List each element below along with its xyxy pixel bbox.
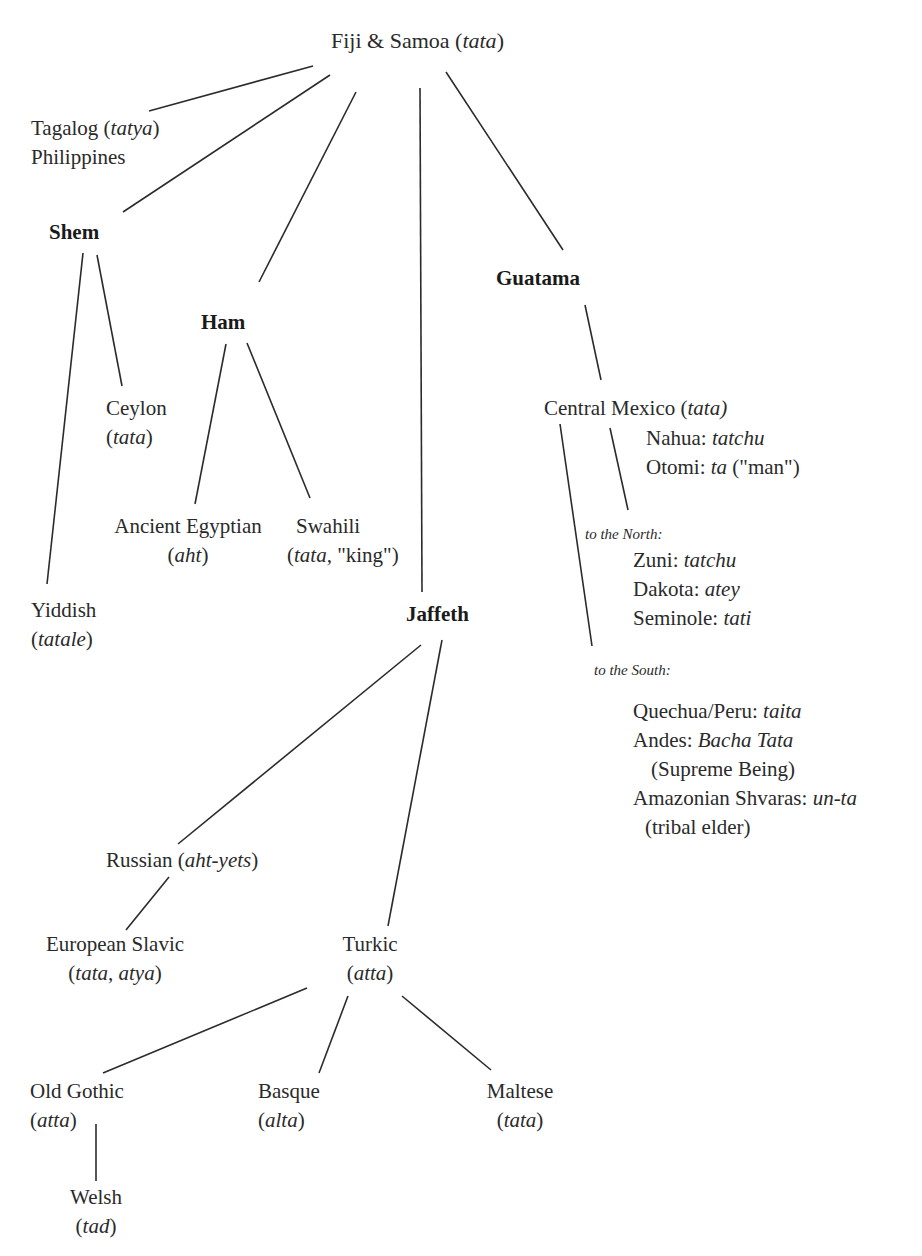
- node-word: ta: [711, 455, 727, 479]
- node-word: tatya: [111, 116, 153, 140]
- edge-ham-swahili: [247, 343, 310, 498]
- node-label: Yiddish: [31, 596, 96, 625]
- node-swahili: Swahili (tata, "king"): [287, 512, 399, 570]
- node-label: European Slavic: [30, 930, 200, 959]
- node-russian: Russian (aht-yets): [106, 846, 258, 875]
- node-word: tata, atya: [75, 961, 154, 985]
- edge-turkic-gothic: [103, 988, 307, 1073]
- edge-root-tagalog: [149, 66, 313, 111]
- node-region: Philippines: [31, 143, 160, 172]
- edge-ham-egyptian: [195, 344, 226, 504]
- node-jaffeth: Jaffeth: [406, 600, 469, 629]
- node-label: Zuni:: [633, 548, 679, 572]
- node-label: Andes:: [633, 728, 693, 752]
- node-label: Shem: [49, 220, 99, 244]
- node-label: Nahua:: [646, 426, 707, 450]
- edge-shem-yiddish: [47, 253, 83, 584]
- node-seminole: Seminole: tati: [633, 604, 751, 633]
- node-quechua: Quechua/Peru: taita: [633, 697, 802, 726]
- node-amazonian: Amazonian Shvaras: un-ta (tribal elder): [633, 784, 857, 842]
- node-label: Seminole:: [633, 606, 718, 630]
- edge-root-ham: [259, 92, 356, 282]
- node-european-slavic: European Slavic (tata, atya): [30, 930, 200, 988]
- node-word: taita: [763, 699, 802, 723]
- node-gloss: "king"): [337, 543, 398, 567]
- node-label: Tagalog: [31, 116, 98, 140]
- node-label: Russian: [106, 848, 173, 872]
- node-central-mexico: Central Mexico (tata): [544, 394, 727, 423]
- edge-root-guatama: [446, 72, 563, 250]
- node-label: Ancient Egyptian: [100, 512, 276, 541]
- note-to-the-north: to the North:: [585, 520, 663, 549]
- edge-jaffeth-russian: [178, 645, 421, 844]
- node-word: aht-yets: [185, 848, 251, 872]
- node-tagalog: Tagalog (tatya) Philippines: [31, 114, 160, 172]
- node-ancient-egyptian: Ancient Egyptian (aht): [100, 512, 276, 570]
- node-label: Dakota:: [633, 577, 699, 601]
- node-word: tatchu: [684, 548, 737, 572]
- edge-root-jaffeth: [420, 88, 422, 592]
- node-word: tata,: [294, 543, 332, 567]
- node-word: tata): [687, 396, 727, 420]
- edge-guatama-mexico: [585, 305, 601, 380]
- node-label: Basque: [258, 1077, 320, 1106]
- node-otomi: Otomi: ta ("man"): [646, 453, 800, 482]
- node-label: Swahili: [287, 512, 399, 541]
- node-word: un-ta: [813, 786, 857, 810]
- node-label: Ham: [201, 310, 245, 334]
- node-word: tata: [113, 425, 146, 449]
- node-word: alta: [265, 1108, 298, 1132]
- node-andes: Andes: Bacha Tata (Supreme Being): [633, 726, 795, 784]
- node-ham: Ham: [201, 308, 245, 337]
- node-dakota: Dakota: atey: [633, 575, 740, 604]
- node-label: Fiji & Samoa: [331, 28, 450, 53]
- edge-turkic-basque: [319, 996, 348, 1073]
- node-yiddish: Yiddish (tatale): [31, 596, 96, 654]
- node-label: Quechua/Peru:: [633, 699, 758, 723]
- node-word: tad: [83, 1214, 110, 1238]
- node-word: tati: [723, 606, 751, 630]
- node-fiji-samoa: Fiji & Samoa (tata): [331, 26, 504, 55]
- node-label: Turkic: [330, 930, 410, 959]
- node-ceylon: Ceylon (tata): [106, 394, 167, 452]
- node-word: tatchu: [712, 426, 765, 450]
- node-word: Bacha Tata: [698, 728, 793, 752]
- edge-russian-slavic: [126, 877, 169, 930]
- node-welsh: Welsh (tad): [58, 1183, 134, 1241]
- node-guatama: Guatama: [496, 264, 580, 293]
- node-zuni: Zuni: tatchu: [633, 546, 736, 575]
- node-label: Amazonian Shvaras:: [633, 786, 807, 810]
- node-word: atta: [37, 1108, 70, 1132]
- edge-mexico-north: [610, 428, 628, 510]
- node-label: Maltese: [480, 1077, 560, 1106]
- node-label: Otomi:: [646, 455, 706, 479]
- edge-jaffeth-turkic: [388, 640, 442, 926]
- node-label: Welsh: [58, 1183, 134, 1212]
- node-word: atta: [354, 961, 387, 985]
- node-gloss: ("man"): [732, 455, 799, 479]
- node-nahua: Nahua: tatchu: [646, 424, 764, 453]
- node-word: tata: [462, 28, 496, 53]
- node-label: Jaffeth: [406, 602, 469, 626]
- node-label: Old Gothic: [30, 1077, 124, 1106]
- node-label: Ceylon: [106, 394, 167, 423]
- node-old-gothic: Old Gothic (atta): [30, 1077, 124, 1135]
- node-maltese: Maltese (tata): [480, 1077, 560, 1135]
- edge-turkic-maltese: [402, 996, 491, 1070]
- node-gloss: (tribal elder): [633, 813, 857, 842]
- edge-shem-ceylon: [97, 255, 122, 386]
- node-word: tatale: [38, 627, 86, 651]
- node-word: aht: [175, 543, 202, 567]
- node-gloss: (Supreme Being): [633, 755, 795, 784]
- node-turkic: Turkic (atta): [330, 930, 410, 988]
- node-label: Central Mexico: [544, 396, 675, 420]
- node-word: tata: [504, 1108, 537, 1132]
- note-to-the-south: to the South:: [594, 656, 671, 685]
- node-word: atey: [705, 577, 740, 601]
- node-basque: Basque (alta): [258, 1077, 320, 1135]
- node-shem: Shem: [49, 218, 99, 247]
- node-label: Guatama: [496, 266, 580, 290]
